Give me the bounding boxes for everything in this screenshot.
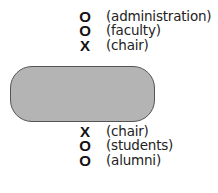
top-item-faculty: O (faculty): [0, 23, 218, 38]
circle-marker-icon: O: [79, 153, 91, 168]
circle-marker-icon: O: [79, 23, 91, 38]
item-label: (chair): [106, 38, 149, 53]
item-label: (alumni): [106, 153, 161, 168]
bottom-item-alumni: O (alumni): [0, 153, 218, 168]
rounded-rectangle: [10, 66, 155, 122]
top-item-chair: X (chair): [0, 38, 218, 53]
circle-marker-icon: O: [79, 138, 91, 153]
item-label: (students): [106, 138, 173, 153]
bottom-item-students: O (students): [0, 138, 218, 153]
x-marker-icon: X: [79, 38, 91, 53]
item-label: (faculty): [106, 23, 161, 38]
